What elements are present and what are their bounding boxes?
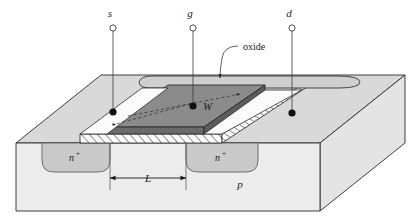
source-contact-dot [109, 108, 116, 115]
gate-terminal-label: g [187, 7, 193, 19]
oxide-front-strip [80, 134, 222, 143]
source-terminal-label: s [108, 7, 112, 19]
gate-contact-dot [189, 102, 196, 109]
drain-nplus-plus: + [222, 150, 226, 158]
drain-terminal-circle[interactable] [289, 25, 295, 31]
oxide-leader-line [220, 46, 238, 78]
mosfet-diagram: s g d oxide W L p n + n + [0, 0, 411, 220]
source-terminal-circle[interactable] [110, 25, 116, 31]
drain-contact-dot [288, 109, 295, 116]
source-nplus-n: n [69, 152, 74, 163]
oxide-label: oxide [243, 41, 266, 52]
drain-terminal-label: d [286, 7, 292, 19]
oxide-callout [220, 46, 238, 78]
figure-root: s g d oxide W L p n + n + [0, 0, 411, 220]
source-nplus-plus: + [76, 150, 80, 158]
channel-width-label: W [203, 100, 213, 112]
channel-length-label: L [144, 172, 151, 184]
gate-terminal-circle[interactable] [190, 25, 196, 31]
substrate-label: p [236, 178, 243, 190]
drain-nplus-n: n [215, 152, 220, 163]
gate-front-face [107, 127, 204, 134]
